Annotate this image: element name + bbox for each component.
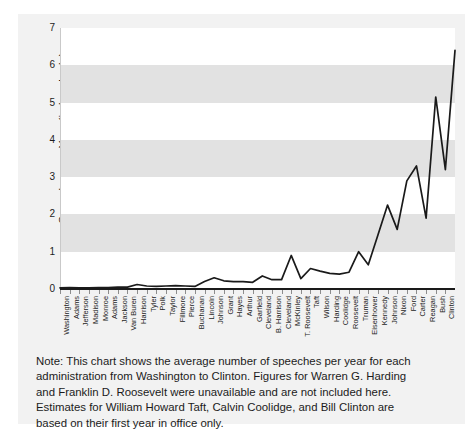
x-tick-label: Bush <box>439 296 446 313</box>
x-tick-mark <box>214 290 215 294</box>
x-tick-label: Taft <box>313 296 320 308</box>
x-tick-mark <box>224 290 225 294</box>
x-tick-mark <box>320 290 321 294</box>
x-tick-mark <box>339 290 340 294</box>
y-tick-label: 4 <box>49 135 55 145</box>
x-tick-mark <box>243 290 244 294</box>
x-tick-label: Van Buren <box>130 296 137 330</box>
x-tick-mark <box>291 290 292 294</box>
x-tick-label: Wilson <box>323 296 330 318</box>
x-tick-mark <box>378 290 379 294</box>
x-tick-label: Hayes <box>236 296 243 317</box>
x-tick-label: Reagan <box>429 296 436 322</box>
x-tick-label: Johnson <box>391 296 398 324</box>
chart-page: Speeches per Year (in hundreds) 01234567… <box>0 0 475 436</box>
x-tick-mark <box>426 290 427 294</box>
x-tick-mark <box>282 290 283 294</box>
x-tick-mark <box>436 290 437 294</box>
y-tick-label: 3 <box>49 172 55 182</box>
y-tick-label: 2 <box>49 209 55 219</box>
x-tick-label: Pierce <box>188 296 195 317</box>
x-tick-label: Coolidge <box>342 296 349 325</box>
x-tick-mark <box>416 290 417 294</box>
x-tick-mark <box>137 290 138 294</box>
x-tick-label: Buchanan <box>198 296 205 329</box>
x-tick-mark <box>368 290 369 294</box>
x-tick-mark <box>195 290 196 294</box>
note-line: administration from Washington to Clinto… <box>36 369 456 384</box>
x-tick-mark <box>397 290 398 294</box>
x-tick-mark <box>89 290 90 294</box>
x-tick-mark <box>185 290 186 294</box>
x-tick-label: Polk <box>159 296 166 310</box>
x-tick-label: Grant <box>227 296 234 314</box>
chart-figure: Speeches per Year (in hundreds) 01234567… <box>18 14 465 352</box>
x-tick-label: Tyler <box>150 296 157 312</box>
x-tick-mark <box>388 290 389 294</box>
x-tick-label: Taylor <box>169 296 176 316</box>
x-tick-label: Ford <box>410 296 417 311</box>
note-line: Estimates for William Howard Taft, Calvi… <box>36 400 456 415</box>
x-tick-mark <box>79 290 80 294</box>
x-axis-tick-marks <box>60 290 455 295</box>
x-tick-mark <box>108 290 109 294</box>
x-tick-label: Arthur <box>246 296 253 316</box>
x-tick-label: Harding <box>333 296 340 322</box>
note-line: Note: This chart shows the average numbe… <box>36 354 456 369</box>
x-tick-label: Adams <box>111 296 118 319</box>
x-tick-mark <box>205 290 206 294</box>
x-tick-label: McKinley <box>294 296 301 326</box>
x-tick-mark <box>310 290 311 294</box>
line-series <box>60 28 455 289</box>
x-tick-mark <box>407 290 408 294</box>
x-tick-label: B. Harrison <box>275 296 282 333</box>
x-tick-mark <box>99 290 100 294</box>
x-tick-label: Madison <box>92 296 99 324</box>
x-tick-label: Fillmore <box>179 296 186 322</box>
x-tick-label: Adams <box>73 296 80 319</box>
y-tick-label: 1 <box>49 247 55 257</box>
y-tick-label: 5 <box>49 98 55 108</box>
x-tick-label: Lincoln <box>208 296 215 319</box>
x-tick-mark <box>176 290 177 294</box>
x-tick-mark <box>359 290 360 294</box>
x-tick-mark <box>445 290 446 294</box>
x-tick-mark <box>233 290 234 294</box>
x-tick-mark <box>147 290 148 294</box>
x-tick-label: Carter <box>419 296 426 317</box>
x-tick-mark <box>349 290 350 294</box>
x-tick-label: Cleveland <box>285 296 292 329</box>
x-tick-label: Jackson <box>121 296 128 323</box>
x-tick-label: Cleveland <box>265 296 272 329</box>
x-tick-label: Garfield <box>256 296 263 322</box>
chart-note: Note: This chart shows the average numbe… <box>36 354 456 431</box>
x-tick-mark <box>156 290 157 294</box>
x-tick-label: Jefferson <box>82 296 89 326</box>
x-tick-label: T. Roosevelt <box>304 296 311 337</box>
x-tick-mark <box>272 290 273 294</box>
y-tick-label: 6 <box>49 60 55 70</box>
x-tick-mark <box>60 290 61 294</box>
x-tick-label: Clinton <box>448 296 455 319</box>
x-tick-mark <box>253 290 254 294</box>
note-line: and Franklin D. Roosevelt were unavailab… <box>36 385 456 400</box>
x-tick-mark <box>70 290 71 294</box>
x-tick-mark <box>166 290 167 294</box>
x-tick-label: Truman <box>362 296 369 321</box>
x-tick-label: Washington <box>63 296 70 335</box>
x-axis-labels: WashingtonAdamsJeffersonMadisonMonroeAda… <box>60 296 455 356</box>
y-tick-label: 0 <box>49 284 55 294</box>
x-tick-label: Kennedy <box>381 296 388 325</box>
y-tick-label: 7 <box>49 23 55 33</box>
note-line: based on their first year in office only… <box>36 416 456 431</box>
x-tick-mark <box>301 290 302 294</box>
x-tick-mark <box>127 290 128 294</box>
x-tick-label: Roosevelt <box>352 296 359 329</box>
x-tick-mark <box>118 290 119 294</box>
x-tick-mark <box>330 290 331 294</box>
x-tick-label: Harrison <box>140 296 147 324</box>
x-tick-mark <box>262 290 263 294</box>
x-tick-label: Eisenhower <box>371 296 378 335</box>
x-tick-label: Monroe <box>102 296 109 321</box>
x-tick-label: Johnson <box>217 296 224 324</box>
